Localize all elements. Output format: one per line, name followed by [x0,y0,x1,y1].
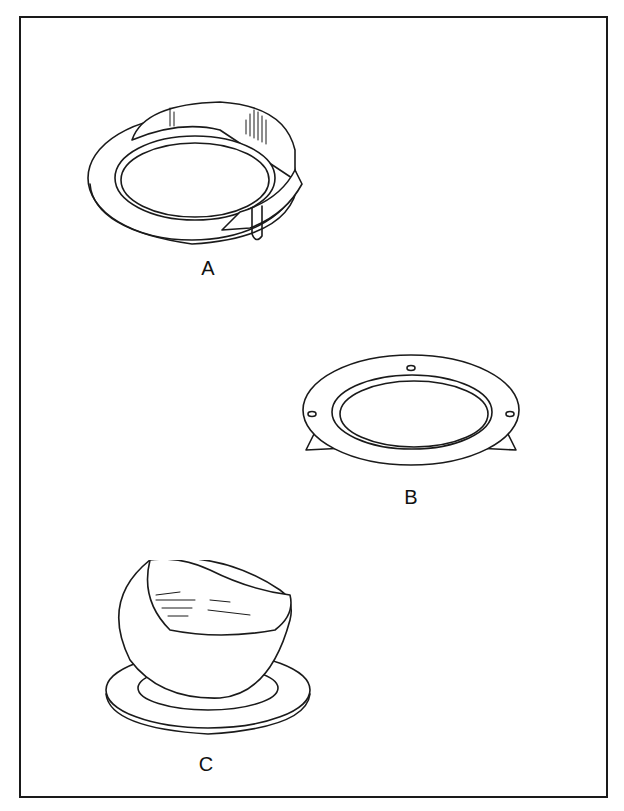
label-a: A [193,257,223,280]
figure-c-drawing [100,560,315,740]
figure-b-drawing [296,350,526,480]
label-b: B [396,486,426,509]
label-c: C [191,753,221,776]
figure-a-drawing [80,80,320,250]
